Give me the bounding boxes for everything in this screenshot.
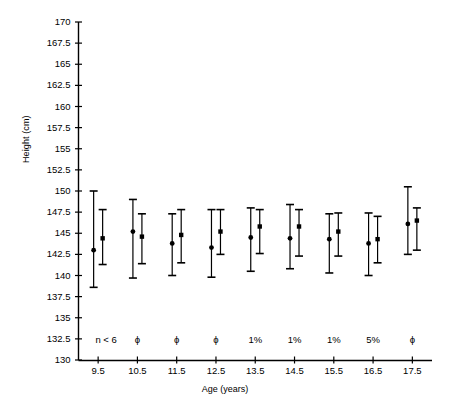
error-bar-group-2 [216,210,224,255]
error-bar-group-2 [99,210,107,265]
annotation-label: 1% [314,335,354,345]
y-tick-label: 140 [25,271,71,281]
data-point-marker [258,224,262,228]
data-point-marker [131,229,136,234]
y-tick-label: 165 [25,59,71,69]
data-point-marker [415,218,419,222]
data-point-marker [140,234,144,238]
error-bar-group-1 [325,214,333,273]
error-bar-group-1 [247,208,255,271]
y-tick-label: 162.5 [25,80,71,90]
y-tick-label: 160 [25,102,71,112]
data-point-marker [91,248,96,253]
x-tick-label: 14.5 [275,366,315,376]
error-bar-group-1 [404,187,412,255]
data-point-marker [288,236,293,241]
annotation-label: ϕ [196,335,236,345]
data-point-marker [327,237,332,242]
annotation-label: ϕ [157,335,197,345]
error-bar-group-2 [138,214,146,264]
y-tick-label: 157.5 [25,123,71,133]
data-point-marker [209,245,214,250]
data-point-marker [375,237,379,241]
error-bar-group-1 [286,205,294,269]
y-tick-label: 130 [25,355,71,365]
error-bar-group-1 [129,199,137,278]
y-tick-label: 135 [25,313,71,323]
x-tick-label: 13.5 [235,366,275,376]
annotation-label: 1% [235,335,275,345]
error-bar-group-1 [90,191,98,287]
data-point-marker [336,229,340,233]
y-tick-label: 167.5 [25,38,71,48]
error-bar-group-2 [413,208,421,250]
data-point-marker [170,241,175,246]
data-point-marker [100,236,104,240]
y-tick-label: 147.5 [25,207,71,217]
data-point-marker [297,224,301,228]
y-tick-label: 145 [25,228,71,238]
error-bar-group-2 [374,216,382,262]
x-tick-label: 12.5 [196,366,236,376]
x-tick-label: 9.5 [78,366,118,376]
y-tick-label: 142.5 [25,249,71,259]
data-point-marker [179,233,183,237]
data-series-layer [90,187,421,288]
axis-lines [79,22,433,361]
annotation-label: 5% [353,335,393,345]
x-tick-label: 10.5 [117,366,157,376]
x-tick-label: 11.5 [157,366,197,376]
x-tick-label: 16.5 [353,366,393,376]
x-tick-label: 17.5 [392,366,432,376]
y-tick-label: 150 [25,186,71,196]
error-bar-group-1 [365,213,373,276]
x-tick-label: 15.5 [314,366,354,376]
error-bar-group-2 [177,210,185,263]
chart-container: Height (cm) Age (years) 130132.5135137.5… [0,0,450,412]
error-bar-group-2 [334,213,342,256]
annotation-label: ϕ [392,335,432,345]
data-point-marker [405,222,410,227]
error-bar-group-2 [295,210,303,256]
data-point-marker [248,235,253,240]
error-bar-group-1 [168,214,176,276]
data-point-marker [366,241,371,246]
y-tick-label: 155 [25,144,71,154]
annotation-label: ϕ [117,335,157,345]
y-tick-label: 170 [25,17,71,27]
y-tick-label: 152.5 [25,165,71,175]
data-point-marker [218,229,222,233]
error-bar-group-1 [207,210,215,278]
annotation-label: 1% [275,335,315,345]
y-tick-label: 132.5 [25,334,71,344]
y-tick-label: 137.5 [25,292,71,302]
error-bar-group-2 [256,210,264,254]
